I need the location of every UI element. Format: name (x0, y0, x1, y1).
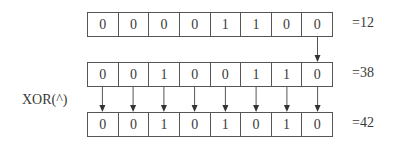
arrowhead-icon (315, 55, 321, 62)
arrows (0, 0, 395, 144)
